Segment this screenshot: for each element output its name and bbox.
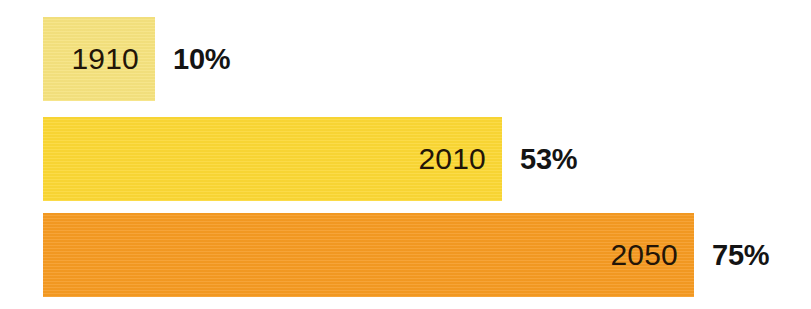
bar-year-label-1910: 1910 — [71, 42, 155, 76]
bar-year-label-2010: 2010 — [418, 142, 502, 176]
bar-1910[interactable]: 1910 — [43, 17, 155, 101]
bar-value-label-1910: 10% — [155, 43, 230, 76]
bar-chart: 1910 10% 2010 53% 2050 75% — [0, 0, 811, 309]
bar-row-2050: 2050 75% — [0, 213, 769, 297]
bar-value-label-2050: 75% — [694, 239, 769, 272]
bar-2010[interactable]: 2010 — [43, 117, 502, 201]
bar-row-2010: 2010 53% — [0, 117, 577, 201]
bar-value-label-2010: 53% — [502, 143, 577, 176]
bar-2050[interactable]: 2050 — [43, 213, 694, 297]
bar-year-label-2050: 2050 — [610, 238, 694, 272]
bar-row-1910: 1910 10% — [0, 17, 230, 101]
